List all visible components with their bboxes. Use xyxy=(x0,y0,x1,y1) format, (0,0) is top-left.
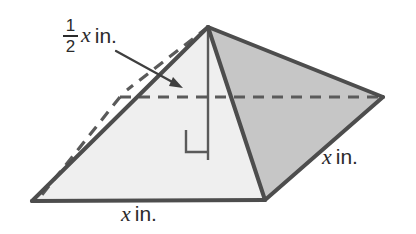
fraction-denominator: 2 xyxy=(64,37,77,55)
one-half-fraction: 1 2 xyxy=(63,17,78,56)
height-unit: in. xyxy=(95,25,117,46)
side-edge-label: xin. xyxy=(322,146,358,168)
side-unit: in. xyxy=(336,145,358,168)
base-variable: x xyxy=(121,201,135,226)
height-variable: x xyxy=(81,24,95,46)
side-variable: x xyxy=(322,144,336,169)
base-unit: in. xyxy=(135,202,157,225)
height-label: 1 2 x in. xyxy=(63,16,117,55)
base-edge-label: xin. xyxy=(121,203,157,225)
front-base-edge xyxy=(32,200,265,201)
pyramid-figure: 1 2 x in. xin. xin. xyxy=(0,0,416,234)
fraction-numerator: 1 xyxy=(64,17,77,35)
